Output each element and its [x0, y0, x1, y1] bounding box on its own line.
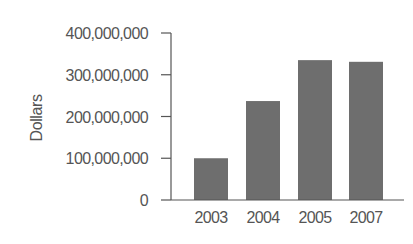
- y-axis-title: Dollars: [28, 94, 45, 141]
- bar-2003: [194, 158, 228, 200]
- x-axis-labels: 2003200420052007: [194, 209, 383, 226]
- x-tick-label: 2003: [194, 209, 228, 226]
- y-axis-ticks: 0100,000,000200,000,000300,000,000400,00…: [66, 25, 171, 209]
- y-tick-label: 400,000,000: [66, 25, 149, 42]
- y-tick-label: 200,000,000: [66, 109, 149, 126]
- x-tick-label: 2005: [298, 209, 332, 226]
- bar-2007: [349, 62, 383, 200]
- bar-2005: [298, 60, 332, 200]
- y-tick-label: 300,000,000: [66, 67, 149, 84]
- x-tick-label: 2007: [349, 209, 383, 226]
- x-tick-label: 2004: [246, 209, 280, 226]
- y-tick-label: 100,000,000: [66, 150, 149, 167]
- bar-2004: [246, 101, 280, 200]
- bars: [194, 60, 383, 200]
- y-tick-label: 0: [140, 192, 149, 209]
- bar-chart: 0100,000,000200,000,000300,000,000400,00…: [0, 0, 413, 244]
